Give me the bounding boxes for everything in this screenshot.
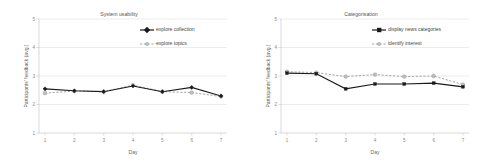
data-point-marker bbox=[315, 72, 318, 75]
y-tick-label-3: 3 bbox=[274, 74, 277, 79]
data-point-marker bbox=[43, 91, 47, 95]
x-tick-label-6: 6 bbox=[190, 138, 193, 143]
legend-label-display-news-categories: display news categories bbox=[388, 26, 442, 32]
data-point-marker bbox=[344, 87, 347, 90]
square-marker-icon bbox=[377, 28, 381, 32]
y-axis-title: Participants' feedback (avg.) bbox=[23, 44, 29, 107]
x-tick-label-2: 2 bbox=[315, 138, 318, 143]
x-tick-label-5: 5 bbox=[403, 138, 406, 143]
y-axis-title: Participants' feedback (avg.) bbox=[265, 44, 271, 107]
data-point-marker bbox=[432, 74, 436, 78]
x-tick-label-4: 4 bbox=[374, 138, 377, 143]
x-tick-label-3: 3 bbox=[102, 138, 105, 143]
y-tick-label-3: 3 bbox=[32, 74, 35, 79]
chart-panel-categorisation: Categorisation 5 4 3 2 1 Participant bbox=[242, 0, 484, 163]
data-point-marker bbox=[286, 72, 289, 75]
y-tick-label-1: 1 bbox=[32, 131, 35, 136]
chart-panel-system-usability: System usability 5 4 3 2 1 bbox=[0, 0, 242, 163]
data-point-marker bbox=[402, 75, 406, 79]
legend-label-identify-interest: identify interest bbox=[388, 40, 422, 46]
y-tick-label-5: 5 bbox=[274, 17, 277, 22]
x-tick-label-2: 2 bbox=[73, 138, 76, 143]
x-tick-label-1: 1 bbox=[286, 138, 289, 143]
two-panel-line-chart-figure: System usability 5 4 3 2 1 bbox=[0, 0, 484, 163]
circle-marker-icon bbox=[377, 42, 380, 45]
y-tick-label-2: 2 bbox=[274, 102, 277, 107]
panel-background bbox=[242, 0, 484, 163]
circle-marker-icon bbox=[145, 42, 148, 45]
x-tick-label-7: 7 bbox=[220, 138, 223, 143]
legend-label-explore-collection: explore collection bbox=[156, 26, 195, 32]
x-axis-title: Day bbox=[371, 149, 380, 155]
x-tick-label-3: 3 bbox=[344, 138, 347, 143]
data-point-marker bbox=[432, 82, 435, 85]
data-point-marker bbox=[190, 91, 194, 95]
legend-label-explore-topics: explore topics bbox=[156, 40, 187, 46]
data-point-marker bbox=[344, 75, 348, 79]
y-tick-label-4: 4 bbox=[32, 45, 35, 50]
data-point-marker bbox=[462, 85, 465, 88]
y-tick-label-1: 1 bbox=[274, 131, 277, 136]
chart-title: Categorisation bbox=[344, 11, 378, 17]
panel-background bbox=[0, 0, 242, 163]
data-point-marker bbox=[373, 73, 377, 77]
chart-title: System usability bbox=[100, 11, 138, 17]
x-tick-label-6: 6 bbox=[432, 138, 435, 143]
y-tick-label-4: 4 bbox=[274, 45, 277, 50]
x-tick-label-5: 5 bbox=[161, 138, 164, 143]
y-tick-label-2: 2 bbox=[32, 102, 35, 107]
x-tick-label-7: 7 bbox=[462, 138, 465, 143]
x-tick-label-1: 1 bbox=[44, 138, 47, 143]
x-tick-label-4: 4 bbox=[132, 138, 135, 143]
data-point-marker bbox=[403, 82, 406, 85]
x-axis-title: Day bbox=[129, 149, 138, 155]
y-tick-label-5: 5 bbox=[32, 17, 35, 22]
data-point-marker bbox=[374, 82, 377, 85]
